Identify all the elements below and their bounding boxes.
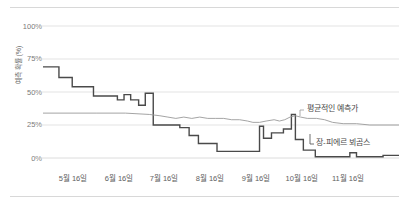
annotation-jean-pierre-beugoms: 장-피에르 뵈곰스 <box>316 136 370 147</box>
chart-page: 예측 확률 (%) 100% 75% 50% 25% 0% 5월 16일 6월 … <box>0 0 409 208</box>
series-line <box>43 113 399 125</box>
annotation-average-forecaster: 평균적인 예측가 <box>307 102 358 113</box>
